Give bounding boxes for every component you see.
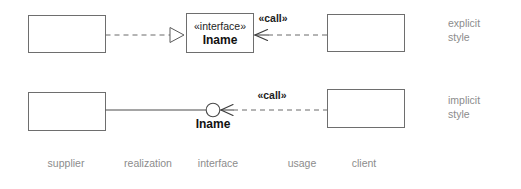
- supplier-box-explicit[interactable]: [29, 16, 106, 53]
- legend-item-usage: usage: [288, 157, 317, 169]
- usage-stereotype-label-explicit: «call»: [258, 12, 287, 24]
- implicit-style-note-line2: style: [448, 107, 480, 121]
- explicit-style-note-line2: style: [448, 30, 480, 44]
- implicit-style-note-line1: implicit: [448, 93, 480, 107]
- explicit-style-note-line1: explicit: [448, 16, 480, 30]
- uml-interface-diagram: «interface» Iname «call» explicit style …: [0, 0, 521, 189]
- legend-item-realization: realization: [124, 157, 172, 169]
- interface-name-label-explicit: Iname: [203, 33, 238, 47]
- interface-lollipop-icon[interactable]: [206, 103, 220, 117]
- legend-item-supplier: supplier: [48, 157, 85, 169]
- interface-stereotype-label: «interface»: [194, 20, 246, 32]
- legend-item-interface: interface: [198, 157, 238, 169]
- client-box-explicit[interactable]: [328, 15, 405, 52]
- interface-name-label-implicit: Iname: [196, 117, 231, 131]
- supplier-box-implicit[interactable]: [29, 93, 106, 131]
- legend-item-client: client: [352, 157, 377, 169]
- usage-stereotype-label-implicit: «call»: [257, 89, 286, 101]
- realization-hollow-triangle-icon: [170, 28, 184, 43]
- explicit-style-note: explicit style: [448, 16, 480, 44]
- implicit-style-note: implicit style: [448, 93, 480, 121]
- client-box-implicit[interactable]: [328, 90, 405, 128]
